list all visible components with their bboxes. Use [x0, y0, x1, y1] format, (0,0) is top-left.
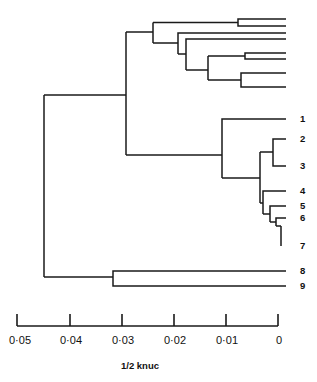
branch-top8-node: [153, 23, 178, 44]
axis-label-0-05: 0·05: [9, 334, 31, 346]
axis-label-0-01: 0·01: [216, 334, 238, 346]
leaf-label-1: 1: [300, 113, 306, 124]
dendrogram-canvas: 1 2 3 4 5 6 7 8 9 0·05 0·04 0·03 0·02: [0, 0, 317, 382]
branch-leaf-89-pair: [113, 271, 286, 286]
leaf-label-8: 8: [300, 265, 305, 276]
branch-leaf-5: [270, 206, 286, 222]
leaf-label-7: 7: [300, 240, 305, 251]
dendrogram-figure: 1 2 3 4 5 6 7 8 9 0·05 0·04 0·03 0·02: [0, 0, 317, 382]
branch-leaf-23-pair: [260, 139, 286, 166]
axis-label-0-02: 0·02: [164, 334, 186, 346]
leaf-label-group: 1 2 3 4 5 6 7 8 9: [300, 113, 306, 291]
root-branches: [44, 32, 126, 277]
axis-label-0-03: 0·03: [112, 334, 134, 346]
branch-leaf-4: [263, 191, 286, 214]
leaf-label-2: 2: [300, 133, 305, 144]
leaf-label-3: 3: [300, 160, 305, 171]
branch-top-pair: [153, 19, 286, 26]
axis-title: 1/2 knuc: [121, 360, 159, 371]
branch-tip78-pair: [208, 73, 286, 87]
branch-tip56-pair: [208, 53, 286, 59]
leaf-label-6: 6: [300, 212, 305, 223]
branch-tip4: [186, 39, 286, 70]
lower-cluster-branches: [44, 271, 286, 286]
axis-label-0: 0: [276, 334, 282, 346]
upper-cluster-branches: [126, 19, 286, 87]
branch-leaf-6: [276, 218, 286, 226]
leaf-label-9: 9: [300, 280, 305, 291]
leaf-label-5: 5: [300, 200, 306, 211]
leaf-label-4: 4: [300, 185, 306, 196]
axis-group: 0·05 0·04 0·03 0·02 0·01 0 1/2 knuc: [9, 314, 282, 371]
branch-tip3: [178, 33, 286, 54]
branch-leaf-1: [222, 119, 286, 178]
branch-leaf-7: [276, 226, 281, 246]
axis-label-0-04: 0·04: [60, 334, 82, 346]
middle-cluster-branches: [126, 119, 286, 246]
